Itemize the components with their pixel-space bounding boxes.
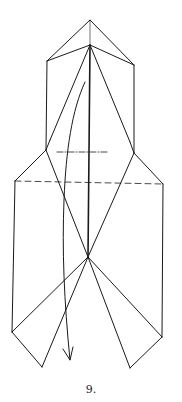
lower-left-wall xyxy=(12,181,15,332)
waist-left-to-center xyxy=(46,150,88,257)
origami-diagram xyxy=(0,0,182,402)
lower-right-wall xyxy=(162,184,163,337)
center-to-right-tip xyxy=(88,257,130,368)
upper-right-diagonal xyxy=(90,45,130,142)
left-shoulder-slope xyxy=(15,150,46,181)
step-number: 9. xyxy=(0,383,182,396)
center-to-left-corner xyxy=(12,257,88,332)
upper-left-wall xyxy=(46,61,47,150)
right-shoulder-slope xyxy=(134,153,163,184)
center-to-left-tip xyxy=(42,257,88,367)
center-to-right-corner xyxy=(88,257,162,337)
upper-left-diagonal xyxy=(50,45,90,140)
left-flap-bottom xyxy=(12,332,42,367)
center-spine xyxy=(88,45,90,257)
waist-right-small xyxy=(130,142,134,153)
arrow-head-icon xyxy=(63,347,73,360)
waist-left-small xyxy=(46,140,50,150)
right-flap-bottom xyxy=(130,337,162,368)
waist-right-to-center xyxy=(88,153,134,257)
